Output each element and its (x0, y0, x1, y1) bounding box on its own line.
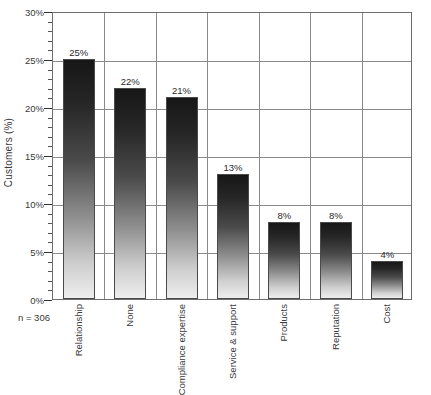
bar-value-label: 4% (380, 249, 394, 260)
bar (63, 59, 95, 299)
vertical-gridline (207, 13, 208, 299)
bar-value-label: 25% (69, 47, 88, 58)
x-axis-category-label-text: Cost (381, 304, 392, 324)
bar (166, 97, 198, 299)
x-axis-category-label: None (103, 304, 154, 388)
vertical-gridline (156, 13, 157, 299)
x-axis-category-label: Products (258, 304, 309, 388)
y-axis-major-tick (44, 300, 52, 301)
horizontal-gridline (53, 61, 411, 62)
y-axis-tick-label: 5% (30, 247, 44, 258)
x-axis-category-label: Compliance expertise (155, 304, 206, 388)
x-axis-category-label-text: Relationship (72, 304, 83, 356)
bar (371, 261, 403, 299)
x-axis-category-labels: RelationshipNoneCompliance expertiseServ… (52, 304, 412, 388)
bar-value-label: 8% (278, 210, 292, 221)
vertical-gridline (310, 13, 311, 299)
plot-area: 25%22%21%13%8%8%4% (52, 12, 412, 300)
x-axis-category-label-text: Reputation (329, 304, 340, 350)
x-axis-category-label-text: Service & support (226, 304, 237, 379)
bar (268, 222, 300, 299)
y-axis-major-tick (44, 204, 52, 205)
x-axis-category-label-text: Products (278, 304, 289, 342)
y-axis-tick-labels: 0%5%10%15%20%25%30% (14, 12, 44, 300)
y-axis-tick-marks (44, 12, 52, 300)
horizontal-gridline (53, 109, 411, 110)
bar-value-label: 13% (223, 162, 242, 173)
bar (217, 174, 249, 299)
x-axis-category-label: Relationship (52, 304, 103, 388)
y-axis-tick-label: 25% (25, 55, 44, 66)
y-axis-tick-label: 10% (25, 199, 44, 210)
y-axis-major-tick (44, 60, 52, 61)
bar-value-label: 8% (329, 210, 343, 221)
y-axis-major-tick (44, 12, 52, 13)
y-axis-tick-label: 15% (25, 151, 44, 162)
y-axis-tick-label: 20% (25, 103, 44, 114)
y-axis-major-tick (44, 252, 52, 253)
sample-size-annotation: n = 306 (18, 312, 50, 323)
y-axis-tick-label: 30% (25, 7, 44, 18)
bar-value-label: 22% (121, 76, 140, 87)
bar-value-label: 21% (172, 85, 191, 96)
x-axis-category-label: Reputation (309, 304, 360, 388)
x-axis-category-label: Service & support (206, 304, 257, 388)
vertical-gridline (362, 13, 363, 299)
y-axis-tick-label: 0% (30, 295, 44, 306)
x-axis-category-label-text: Compliance expertise (175, 304, 186, 395)
bar (114, 88, 146, 299)
y-axis-title-text: Customers (%) (4, 118, 15, 187)
x-axis-category-label: Cost (361, 304, 412, 388)
bar (320, 222, 352, 299)
vertical-gridline (259, 13, 260, 299)
y-axis-major-tick (44, 156, 52, 157)
vertical-gridline (104, 13, 105, 299)
y-axis-major-tick (44, 108, 52, 109)
x-axis-category-label-text: None (124, 304, 135, 327)
horizontal-gridline (53, 157, 411, 158)
